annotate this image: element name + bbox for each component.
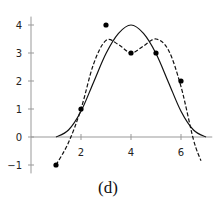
- x-tick-label: 2: [78, 147, 84, 158]
- data-point: [153, 50, 158, 55]
- y-tick-label: 0: [16, 132, 22, 143]
- data-point: [178, 78, 183, 83]
- data-point: [53, 162, 58, 167]
- x-tick-label: 6: [178, 147, 184, 158]
- y-tick-label: 3: [16, 48, 22, 59]
- y-tick-label: 4: [16, 20, 22, 31]
- data-point: [78, 106, 83, 111]
- curves: [56, 25, 206, 165]
- y-tick-label: −1: [7, 160, 22, 171]
- data-point: [103, 22, 108, 27]
- chart-plot: −101234246: [0, 0, 224, 204]
- y-tick-label: 2: [16, 76, 22, 87]
- scatter-points: [53, 22, 183, 167]
- figure-caption: (d): [0, 178, 216, 198]
- axes: −101234246: [7, 17, 212, 174]
- y-tick-label: 1: [16, 104, 22, 115]
- data-point: [128, 50, 133, 55]
- x-tick-label: 4: [128, 147, 134, 158]
